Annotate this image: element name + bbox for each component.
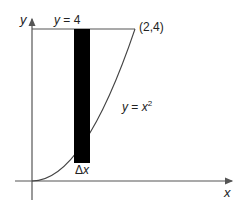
point-label: (2,4) xyxy=(139,20,164,34)
top-line-label: y = 4 xyxy=(53,13,81,27)
strip-rectangle xyxy=(74,29,90,163)
x-axis-label: x xyxy=(223,185,231,200)
y-axis-label: y xyxy=(19,12,28,27)
curve-label: y = x2 xyxy=(121,99,153,114)
delta-x-label: Δx xyxy=(75,163,90,177)
diagram-canvas: y x y = 4 (2,4) y = x2 Δx xyxy=(0,0,245,209)
